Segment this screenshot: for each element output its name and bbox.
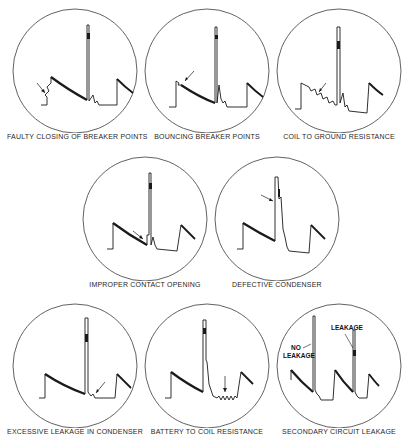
panel-excessive-leakage: EXCESSIVE LEAKAGE IN CONDENSER (7, 300, 143, 428)
panel-defective-condenser: DEFECTIVE CONDENSER (209, 153, 345, 281)
caption-faulty-closing: FAULTY CLOSING OF BREAKER POINTS (7, 133, 143, 140)
panel-coil-to-ground: COIL TO GROUND RESISTANCE (271, 5, 407, 133)
label-no-leakage-line2: LEAKAGE (283, 352, 315, 359)
leader-line (345, 334, 353, 348)
caption-improper-contact: IMPROPER CONTACT OPENING (77, 281, 213, 288)
caption-battery-to-coil: BATTERY TO COIL RESISTANCE (139, 428, 275, 435)
panel-faulty-closing: FAULTY CLOSING OF BREAKER POINTS (7, 5, 143, 133)
caption-coil-to-ground: COIL TO GROUND RESISTANCE (271, 133, 407, 140)
scope-trace-excessive-leakage (7, 300, 143, 428)
scope-trace-defective-condenser (209, 153, 345, 281)
caption-excessive-leakage: EXCESSIVE LEAKAGE IN CONDENSER (7, 428, 143, 435)
scope-trace-faulty-closing (7, 5, 143, 133)
label-leakage: LEAKAGE (331, 324, 363, 331)
leader-line (303, 344, 311, 348)
caption-bouncing-points: BOUNCING BREAKER POINTS (139, 133, 275, 140)
panel-improper-contact: IMPROPER CONTACT OPENING (77, 153, 213, 281)
caption-defective-condenser: DEFECTIVE CONDENSER (209, 281, 345, 288)
scope-trace-bouncing-points (139, 5, 275, 133)
label-no-leakage-line1: NO (291, 344, 301, 351)
scope-trace-coil-to-ground (271, 5, 407, 133)
scope-trace-secondary-leakage: NO LEAKAGE LEAKAGE (271, 300, 407, 428)
scope-trace-improper-contact (77, 153, 213, 281)
panel-secondary-leakage: NO LEAKAGE LEAKAGE SECONDARY CIRCUIT LEA… (271, 300, 407, 428)
panel-battery-to-coil: BATTERY TO COIL RESISTANCE (139, 300, 275, 428)
caption-secondary-leakage: SECONDARY CIRCUIT LEAKAGE (271, 428, 407, 435)
panel-bouncing-points: BOUNCING BREAKER POINTS (139, 5, 275, 133)
scope-trace-battery-to-coil (139, 300, 275, 428)
